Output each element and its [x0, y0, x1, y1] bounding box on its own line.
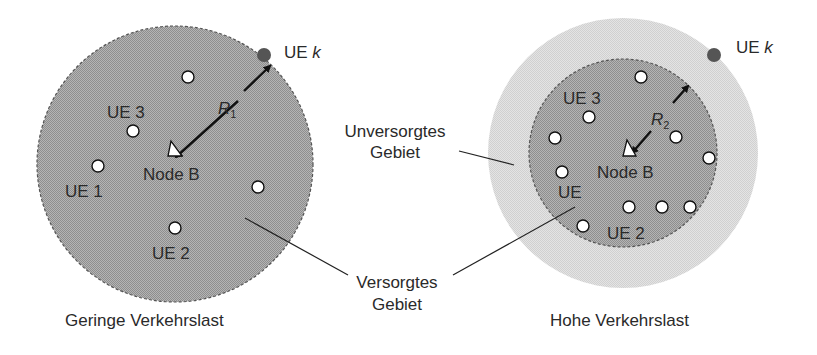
ue-k-dot	[257, 48, 271, 62]
ue-label-3: UE 3	[563, 89, 601, 108]
ue-dot	[556, 166, 568, 178]
node-b-label: Node B	[143, 165, 200, 184]
unserved-area-label: Unversorgtes	[344, 122, 445, 141]
coverage-diagram: UE 3 UE 1 UE 2 Node B R1 UE k Geringe Ve…	[0, 0, 817, 355]
right-panel-high-load: UE 3 UE UE 2 Node B R2 UE k Hohe Verkehr…	[488, 18, 774, 330]
ue-dot-1	[92, 160, 104, 172]
ue-dot	[670, 131, 682, 143]
ue-dot	[684, 201, 696, 213]
served-area-label: Versorgtes	[356, 273, 437, 292]
ue-k-label: UE k	[284, 43, 322, 62]
ue-dot-2	[169, 222, 181, 234]
ue-dot	[703, 152, 715, 164]
served-area-circle	[529, 59, 717, 247]
ue-dot-3	[127, 125, 139, 137]
ue-dot	[577, 220, 589, 232]
node-b-label: Node B	[597, 163, 654, 182]
ue-label-3: UE 3	[107, 103, 145, 122]
ue-label-1: UE 1	[65, 182, 103, 201]
unserved-area-label-2: Gebiet	[370, 143, 420, 162]
caption-high-load: Hohe Verkehrslast	[550, 311, 689, 330]
ue-dot-2	[623, 201, 635, 213]
ue-dot	[182, 71, 194, 83]
ue-label: UE	[558, 183, 582, 202]
ue-dot-3	[583, 111, 595, 123]
ue-dot	[549, 132, 561, 144]
caption-low-load: Geringe Verkehrslast	[65, 311, 224, 330]
ue-k-label: UE k	[736, 38, 774, 57]
served-area-label-2: Gebiet	[372, 295, 422, 314]
ue-dot	[635, 71, 647, 83]
ue-k-dot	[707, 48, 721, 62]
left-panel-low-load: UE 3 UE 1 UE 2 Node B R1 UE k Geringe Ve…	[37, 26, 322, 330]
ue-label-2: UE 2	[607, 224, 645, 243]
ue-dot	[656, 201, 668, 213]
ue-dot	[252, 181, 264, 193]
ue-label-2: UE 2	[152, 244, 190, 263]
